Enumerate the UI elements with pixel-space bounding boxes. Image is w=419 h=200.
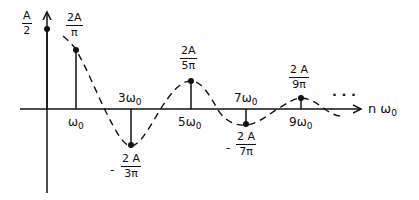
- label-h5-value: 2A 5π: [180, 45, 197, 71]
- label-h3-freq: 3ω0: [118, 92, 141, 104]
- stem-h9-dot: [298, 95, 304, 101]
- label-h3-sign: -: [110, 163, 114, 177]
- label-h3-value: 2 A 3π: [121, 153, 141, 179]
- label-h7-value: 2 A 7π: [236, 131, 256, 157]
- stem-h1-dot: [73, 47, 79, 53]
- label-h9-value: 2 A 9π: [289, 64, 309, 90]
- label-dc-num: A: [22, 10, 32, 24]
- label-h7-den: 7π: [239, 145, 253, 158]
- label-h5-den: 5π: [181, 59, 195, 72]
- stem-h5-dot: [188, 78, 194, 84]
- x-axis-label: n ω0: [368, 102, 397, 115]
- label-h1-num: 2A: [66, 12, 83, 26]
- stem-h7-dot: [243, 121, 249, 127]
- label-h1-freq: ω0: [68, 116, 84, 128]
- continuation-ellipsis: · · ·: [332, 88, 356, 101]
- label-h3-den: 3π: [124, 167, 138, 180]
- label-h9-num: 2 A: [289, 64, 309, 78]
- envelope-curve: [63, 36, 345, 146]
- label-h9-freq: 9ω0: [289, 116, 312, 128]
- label-h7-freq: 7ω0: [234, 92, 257, 104]
- label-h5-num: 2A: [180, 45, 197, 59]
- stem-dc-dot: [44, 26, 50, 32]
- label-h7-sign: -: [226, 141, 230, 155]
- label-dc-den: 2: [23, 24, 30, 37]
- label-h7-num: 2 A: [236, 131, 256, 145]
- stem-h3-dot: [128, 142, 134, 148]
- label-h1-den: π: [71, 26, 78, 39]
- label-h3-num: 2 A: [121, 153, 141, 167]
- label-h1-value: 2A π: [66, 12, 83, 38]
- label-h9-den: 9π: [292, 78, 306, 91]
- label-dc-value: A 2: [22, 10, 32, 36]
- spectrum-diagram: [0, 0, 419, 200]
- label-h5-freq: 5ω0: [178, 116, 201, 128]
